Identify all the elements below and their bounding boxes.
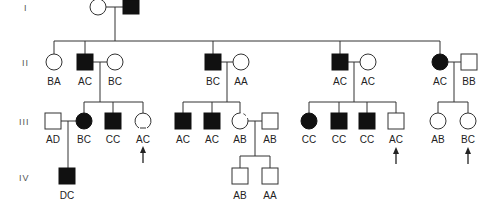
generation-label-IV: IV: [19, 173, 30, 183]
genotype-label: AD: [46, 134, 60, 145]
individual-II-2-male-affected: [77, 54, 93, 70]
genotype-label: AA: [234, 76, 248, 87]
individual-III-2-female-affected: [76, 113, 92, 129]
individual-III-10-male-affected: [331, 113, 347, 129]
generation-label-III: III: [19, 117, 30, 127]
individual-III-1-male: [45, 113, 61, 129]
individual-II-1-female: [46, 54, 62, 70]
individual-IV-1-male-affected: [59, 168, 75, 184]
genotype-label: AC: [176, 134, 190, 145]
individual-I-1-female: [90, 0, 106, 15]
individual-II-3-female: [107, 54, 123, 70]
genotype-label: AC: [205, 134, 219, 145]
individual-II-9-male: [461, 54, 477, 70]
individual-III-11-male-affected: [359, 113, 375, 129]
genotype-label: CC: [360, 134, 374, 145]
genotype-label: DC: [60, 190, 74, 201]
individual-III-12-male-proband: [388, 113, 404, 129]
individual-III-7-female-partial: [232, 113, 248, 129]
genotype-label: AC: [433, 76, 447, 87]
individual-II-8-female-affected: [432, 54, 448, 70]
genotype-label: AC: [136, 134, 150, 145]
individual-IV-3-male: [262, 168, 278, 184]
proband-arrow-icon: [465, 147, 471, 164]
genotype-label: BA: [47, 76, 61, 87]
individual-III-9-female-affected: [301, 113, 317, 129]
individual-III-3-male-affected: [105, 113, 121, 129]
individual-II-6-male-affected: [332, 54, 348, 70]
individual-I-2-male-affected: [123, 0, 139, 14]
genotype-label: BC: [461, 134, 475, 145]
genotype-label: BC: [77, 134, 91, 145]
genotype-label: BB: [462, 76, 476, 87]
individual-II-5-female: [233, 54, 249, 70]
genotype-label: CC: [332, 134, 346, 145]
generation-label-I: I: [24, 3, 28, 13]
individual-III-6-male-affected: [204, 113, 220, 129]
genotype-label: CC: [302, 134, 316, 145]
pedigree-chart: I II III IV: [0, 0, 494, 213]
proband-arrow-icon: [393, 147, 399, 164]
individual-III-14-female-proband: [460, 113, 476, 129]
genotype-label: AB: [431, 134, 445, 145]
individual-III-8-male: [262, 113, 278, 129]
genotype-label: AB: [233, 190, 247, 201]
individual-II-7-female: [360, 54, 376, 70]
genotype-label: BC: [108, 76, 122, 87]
individual-III-5-male-affected: [175, 113, 191, 129]
individual-III-4-female-proband: [135, 113, 151, 128]
genotype-label: BC: [206, 76, 220, 87]
generation-label-II: II: [22, 58, 29, 68]
individual-II-4-male-affected: [205, 54, 221, 70]
genotype-label: CC: [106, 134, 120, 145]
genotype-label: AC: [389, 134, 403, 145]
genotype-label: AC: [333, 76, 347, 87]
genotype-label: AB: [263, 134, 277, 145]
genotype-label: AC: [78, 76, 92, 87]
individual-III-13-female: [430, 113, 446, 129]
proband-arrow-icon: [140, 146, 146, 163]
individual-IV-2-male: [232, 168, 248, 184]
genotype-label: AA: [263, 190, 277, 201]
genotype-label: AC: [361, 76, 375, 87]
genotype-label: AB: [233, 134, 247, 145]
